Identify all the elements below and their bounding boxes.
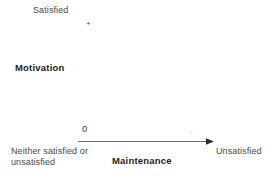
- neither-satisfied-caption: Neither satisfied or unsatisfied: [11, 146, 103, 168]
- unsatisfied-caption: Unsatisfied: [216, 146, 262, 157]
- motivation-axis-title: Motivation: [15, 62, 65, 73]
- motivation-maintenance-diagram: Satisfied + Motivation 0 - Neither satis…: [0, 0, 274, 179]
- maintenance-axis-title: Maintenance: [112, 155, 172, 166]
- satisfied-label: Satisfied: [33, 5, 68, 16]
- origin-zero-label: 0: [82, 123, 87, 134]
- x-axis-arrowhead: [206, 138, 214, 144]
- minus-sign-marker: -: [190, 127, 193, 136]
- plus-sign-marker: +: [86, 19, 91, 28]
